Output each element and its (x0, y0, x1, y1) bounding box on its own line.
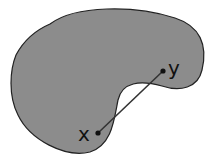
nonconvex-set-shape (11, 9, 204, 153)
nonconvex-set-diagram: x y (0, 0, 210, 160)
label-x: x (78, 122, 90, 146)
point-y (160, 68, 165, 73)
label-y: y (168, 56, 180, 80)
point-x (95, 130, 100, 135)
diagram-canvas: x y (0, 0, 210, 160)
